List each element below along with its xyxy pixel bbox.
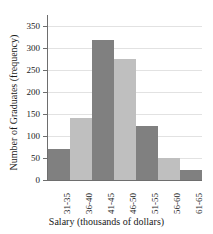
- histogram-chart: Number of Graduates (frequency) 05010015…: [0, 0, 213, 234]
- bar: [48, 149, 70, 180]
- x-axis-tick-label: 41-45: [107, 193, 116, 214]
- x-axis-tick-label: 56-60: [173, 193, 182, 214]
- bar: [70, 118, 92, 180]
- x-axis-tick-label: 51-55: [151, 193, 160, 214]
- y-axis-tick: [43, 26, 47, 27]
- y-axis-tick-label: 250: [27, 66, 41, 75]
- x-axis-tick-labels: 31-3536-4041-4546-5051-5556-6061-65: [48, 182, 202, 216]
- x-axis-tick-label: 31-35: [63, 193, 72, 214]
- y-axis-tick-label: 150: [27, 110, 41, 119]
- y-axis-tick-label: 200: [27, 88, 41, 97]
- bar: [158, 158, 180, 180]
- y-axis-tick: [43, 180, 47, 181]
- x-axis-tick-label: 36-40: [85, 193, 94, 214]
- x-axis-title: Salary (thousands of dollars): [0, 216, 213, 228]
- bar: [136, 126, 158, 180]
- y-axis-tick-label: 100: [27, 132, 41, 141]
- y-axis-tick-label: 0: [36, 176, 41, 185]
- bar: [92, 40, 114, 180]
- y-axis-tick-label: 50: [31, 154, 40, 163]
- y-axis-tick: [43, 48, 47, 49]
- x-axis-tick-label: 61-65: [195, 193, 204, 214]
- y-axis-tick-label: 300: [27, 44, 41, 53]
- bar-series: [48, 15, 202, 180]
- bar: [180, 170, 202, 180]
- y-axis-tick-label: 350: [27, 22, 41, 31]
- x-axis-line: [47, 180, 202, 181]
- y-axis-tick: [43, 70, 47, 71]
- bar: [114, 59, 136, 180]
- y-axis-title: Number of Graduates (frequency): [8, 13, 19, 193]
- x-axis-tick-label: 46-50: [129, 193, 138, 214]
- y-axis-tick: [43, 158, 47, 159]
- y-axis-tick: [43, 92, 47, 93]
- plot-area: 050100150200250300350: [47, 15, 202, 181]
- y-axis-tick: [43, 136, 47, 137]
- y-axis-tick: [43, 114, 47, 115]
